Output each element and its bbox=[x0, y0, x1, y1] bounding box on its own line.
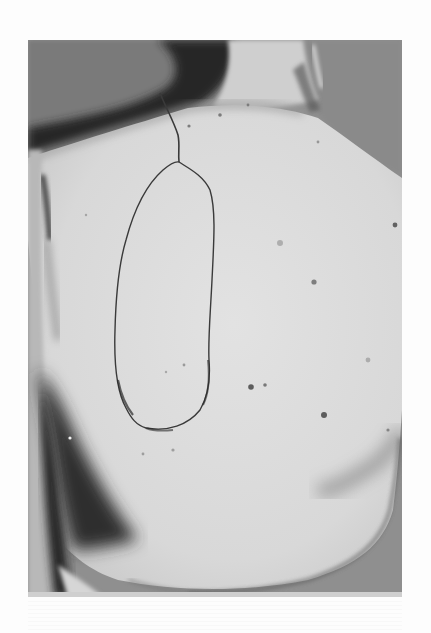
back-photo-graphic bbox=[28, 40, 402, 597]
highlight-speck bbox=[68, 436, 71, 439]
page bbox=[0, 0, 431, 633]
print-bleed-texture bbox=[28, 600, 402, 630]
clinical-photo bbox=[28, 40, 402, 597]
